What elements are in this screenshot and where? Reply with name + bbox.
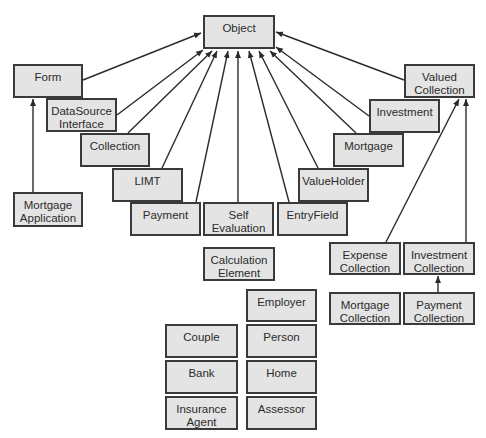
node-label: Form	[35, 71, 62, 84]
node-bank: Bank	[165, 360, 238, 394]
edge-collection-to-object	[128, 51, 212, 133]
node-object: Object	[203, 15, 275, 49]
node-label: Calculation Element	[211, 254, 268, 280]
node-label: Assessor	[258, 403, 305, 416]
node-payment: Payment	[130, 202, 201, 236]
edge-datasource-interface-to-object	[117, 50, 203, 115]
node-label: Person	[263, 331, 299, 344]
node-couple: Couple	[165, 324, 238, 358]
node-datasource-interface: DataSource Interface	[46, 98, 117, 132]
node-employer: Employer	[246, 289, 317, 322]
edge-investment-to-object	[276, 47, 369, 116]
node-label: Expense Collection	[340, 249, 391, 275]
edge-form-to-object	[83, 33, 201, 80]
class-diagram-canvas: Object Form DataSource Interface Collect…	[0, 0, 486, 438]
node-form: Form	[13, 64, 83, 98]
node-label: Collection	[90, 140, 141, 153]
node-payment-collection: Payment Collection	[403, 292, 475, 325]
node-self-evaluation: Self Evaluation	[203, 202, 274, 236]
node-entryfield: EntryField	[277, 202, 348, 236]
node-label: Bank	[188, 367, 214, 380]
node-limt: LIMT	[112, 168, 183, 202]
edge-valued-collection-to-object	[276, 32, 404, 80]
node-label: Payment	[143, 209, 188, 222]
node-label: LIMT	[134, 175, 160, 188]
node-investment-collection: Investment Collection	[403, 242, 475, 275]
edge-mortgage-to-object	[270, 51, 356, 133]
node-label: Mortgage Collection	[340, 299, 391, 325]
node-label: Self Evaluation	[212, 209, 266, 235]
node-valueholder: ValueHolder	[298, 168, 369, 202]
node-label: EntryField	[287, 209, 339, 222]
node-calculation-element: Calculation Element	[203, 247, 275, 281]
node-label: Home	[266, 367, 297, 380]
edge-payment-to-object	[196, 51, 228, 202]
node-label: Mortgage Application	[20, 199, 76, 225]
node-mortgage: Mortgage	[333, 133, 404, 167]
node-person: Person	[246, 324, 317, 358]
node-mortgage-application: Mortgage Application	[13, 192, 83, 227]
node-label: Couple	[183, 331, 219, 344]
node-collection: Collection	[80, 133, 150, 167]
node-label: DataSource Interface	[51, 105, 112, 131]
node-label: Object	[222, 22, 255, 35]
edge-limt-to-object	[162, 51, 217, 168]
edge-valueholder-to-object	[259, 51, 318, 168]
edge-entryfield-to-object	[249, 51, 289, 202]
node-label: Payment Collection	[414, 299, 465, 325]
node-label: Investment Collection	[411, 249, 467, 275]
node-label: ValueHolder	[302, 175, 364, 188]
node-expense-collection: Expense Collection	[329, 242, 401, 275]
node-label: Valued Collection	[414, 71, 465, 97]
node-investment: Investment	[369, 99, 440, 133]
node-home: Home	[246, 360, 317, 394]
node-mortgage-collection: Mortgage Collection	[329, 292, 401, 325]
node-label: Employer	[257, 296, 306, 309]
node-label: Mortgage	[344, 140, 393, 153]
node-label: Investment	[376, 106, 432, 119]
node-label: Insurance Agent	[176, 403, 227, 429]
node-assessor: Assessor	[246, 396, 317, 430]
node-valued-collection: Valued Collection	[404, 64, 475, 98]
node-insurance-agent: Insurance Agent	[165, 396, 238, 430]
